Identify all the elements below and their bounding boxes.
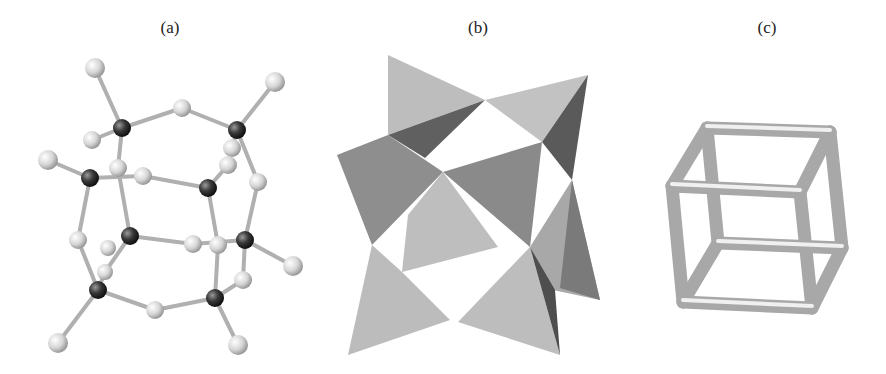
- panel-a-atoms: [38, 58, 303, 355]
- panel-b-tetrahedra: [337, 55, 600, 355]
- panel-a-molecule: [48, 68, 293, 345]
- panel-c-cube: [672, 126, 842, 308]
- figure-canvas: [0, 0, 886, 374]
